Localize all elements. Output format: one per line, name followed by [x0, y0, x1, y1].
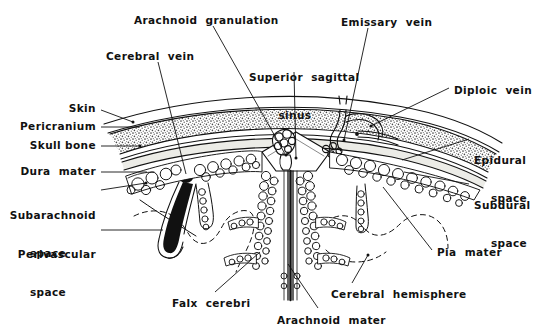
arachnoid-granulation-stalk-left — [280, 155, 291, 170]
label-arachnoid-mater: Arachnoid mater — [277, 314, 386, 327]
label-superior-sagittal-sinus-line1: Superior sagittal — [249, 71, 341, 84]
label-perivascular-space-line2: space — [0, 286, 96, 299]
label-emissary-vein: Emissary vein — [341, 16, 432, 29]
label-arachnoid-granulation: Arachnoid granulation — [134, 14, 279, 27]
cerebral-hemisphere-leader — [352, 255, 368, 283]
falx-trabecula-left-upper — [228, 217, 258, 230]
falx-trabecula-right-lower — [318, 253, 350, 266]
label-skin: Skin — [0, 102, 96, 115]
falx-trabecula-right-upper — [316, 217, 346, 230]
label-perivascular-space: Perivascular space — [0, 223, 96, 323]
label-epidural-space-line1: Epidural — [474, 154, 544, 167]
falx-cerebri — [284, 171, 297, 300]
label-subdural-space-line1: Subdural — [474, 199, 544, 212]
label-superior-sagittal-sinus-line2: sinus — [249, 109, 341, 122]
label-falx-cerebri: Falx cerebri — [172, 297, 250, 310]
label-subarachnoid-space-line1: Subarachnoid — [0, 209, 96, 222]
label-subdural-space: Subdural space — [474, 174, 544, 274]
anatomical-figure: Arachnoid granulation Emissary vein Cere… — [0, 0, 544, 336]
label-superior-sagittal-sinus: Superior sagittal sinus — [249, 46, 341, 146]
label-skull-bone: Skull bone — [0, 139, 96, 152]
diploic-vein-leader — [371, 88, 449, 126]
label-cerebral-hemisphere: Cerebral hemisphere — [331, 288, 467, 301]
label-cerebral-vein: Cerebral vein — [106, 50, 194, 63]
label-pericranium: Pericranium — [0, 120, 96, 133]
pia-mater-leader — [383, 187, 432, 250]
label-diploic-vein: Diploic vein — [454, 84, 532, 97]
label-dura-mater: Dura mater — [0, 165, 96, 178]
label-perivascular-space-line1: Perivascular — [0, 248, 96, 261]
label-pia-mater: Pia mater — [437, 246, 502, 259]
